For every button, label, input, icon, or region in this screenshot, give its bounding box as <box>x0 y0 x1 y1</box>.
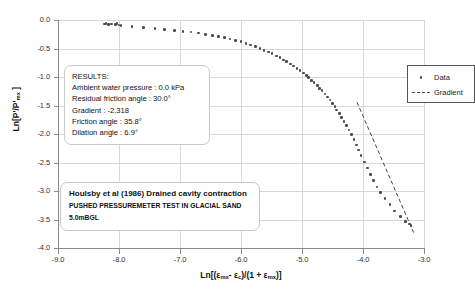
x-axis-title: Ln[(εmx- εc)/(1 + εmx)] <box>58 270 424 280</box>
x-axis-tick-label: -4.0 <box>343 255 383 264</box>
x-axis-tick-label: -5.0 <box>282 255 322 264</box>
chart-legend: Data Gradient <box>407 65 475 103</box>
y-axis-tick-label: -3.0 <box>8 186 50 195</box>
results-callout: RESULTS: Ambient water pressure : 0.0 kP… <box>64 65 210 145</box>
x-axis-tick-label: -8.0 <box>99 255 139 264</box>
legend-label-gradient: Gradient <box>434 88 463 97</box>
y-axis-tick <box>54 220 59 221</box>
y-axis-tick <box>54 191 59 192</box>
legend-item-gradient: Gradient <box>408 85 474 100</box>
gridline-vertical <box>424 20 425 248</box>
x-axis-tick <box>241 249 242 254</box>
results-line-friction-angle: Friction angle : 35.8° <box>72 116 202 127</box>
y-axis-tick <box>54 49 59 50</box>
x-axis-tick <box>58 249 59 254</box>
test-note-callout: Houlsby et al (1986) Drained cavity cont… <box>60 182 260 231</box>
x-axis-tick <box>180 249 181 254</box>
results-line-residual-friction-angle: Residual friction angle : 30.0° <box>72 93 202 104</box>
legend-dashed-line-icon <box>408 92 434 93</box>
results-line-ambient-water-pressure: Ambient water pressure : 0.0 kPa <box>72 82 202 93</box>
x-axis-tick <box>424 249 425 254</box>
results-heading: RESULTS: <box>72 71 202 82</box>
x-axis-tick <box>119 249 120 254</box>
x-axis-tick-label: -3.0 <box>404 255 444 264</box>
y-axis-tick <box>54 134 59 135</box>
results-line-gradient: Gradient : -2.318 <box>72 105 202 116</box>
y-axis-tick-label: -3.5 <box>8 215 50 224</box>
x-axis-tick-label: -6.0 <box>221 255 261 264</box>
y-axis-tick <box>54 106 59 107</box>
y-axis-tick <box>54 163 59 164</box>
legend-marker-dot-icon <box>408 76 434 79</box>
x-axis-tick-label: -7.0 <box>160 255 200 264</box>
x-axis-tick <box>363 249 364 254</box>
note-title: Houlsby et al (1986) Drained cavity cont… <box>69 188 251 200</box>
y-axis-tick <box>54 20 59 21</box>
legend-item-data: Data <box>408 70 474 85</box>
note-depth: 5.0mBGL <box>69 212 251 224</box>
note-subtitle: PUSHED PRESSUREMETER TEST IN GLACIAL SAN… <box>69 200 251 212</box>
y-axis-tick-label: 0.0 <box>8 15 50 24</box>
x-axis-tick <box>302 249 303 254</box>
y-axis-tick <box>54 77 59 78</box>
results-line-dilation-angle: Dilation angle : 6.9° <box>72 127 202 138</box>
y-axis-tick-label: -4.0 <box>8 243 50 252</box>
x-axis-tick-label: -9.0 <box>38 255 78 264</box>
y-axis-title: Ln[P'/P'mx ] <box>11 49 21 169</box>
legend-label-data: Data <box>434 73 450 82</box>
